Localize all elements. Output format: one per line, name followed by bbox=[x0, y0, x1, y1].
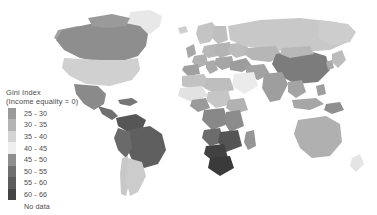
legend-item: 60 - 66 bbox=[6, 189, 118, 201]
legend-label: 45 - 50 bbox=[24, 155, 47, 164]
legend-label: 25 - 30 bbox=[24, 109, 47, 118]
map-legend: Gini Index (Income equality = 0) 25 - 30… bbox=[6, 88, 118, 212]
legend-subtitle: (Income equality = 0) bbox=[6, 97, 118, 106]
legend-swatch-no-data bbox=[8, 200, 16, 212]
legend-swatch bbox=[8, 154, 16, 166]
legend-swatch bbox=[8, 108, 16, 120]
legend-item-no-data: No data bbox=[6, 200, 118, 212]
legend-item: 40 - 45 bbox=[6, 142, 118, 154]
legend-label: 60 - 66 bbox=[24, 190, 47, 199]
legend-item: 25 - 30 bbox=[6, 108, 118, 120]
legend-label: 40 - 45 bbox=[24, 144, 47, 153]
legend-label: 50 - 55 bbox=[24, 167, 47, 176]
legend-swatch bbox=[8, 142, 16, 154]
legend-title: Gini Index bbox=[6, 88, 118, 97]
legend-item: 50 - 55 bbox=[6, 166, 118, 178]
legend-label: 55 - 60 bbox=[24, 178, 47, 187]
legend-label: 35 - 40 bbox=[24, 132, 47, 141]
legend-item: 55 - 60 bbox=[6, 177, 118, 189]
legend-item: 30 - 35 bbox=[6, 119, 118, 131]
legend-item: 45 - 50 bbox=[6, 154, 118, 166]
legend-items: 25 - 30 30 - 35 35 - 40 40 - 45 45 - 50 bbox=[6, 108, 118, 212]
legend-swatch bbox=[8, 131, 16, 143]
legend-label: No data bbox=[24, 202, 50, 211]
legend-swatch bbox=[8, 189, 16, 201]
legend-item: 35 - 40 bbox=[6, 131, 118, 143]
gini-index-world-map: Gini Index (Income equality = 0) 25 - 30… bbox=[0, 0, 377, 215]
legend-label: 30 - 35 bbox=[24, 120, 47, 129]
legend-swatch bbox=[8, 166, 16, 178]
legend-swatch bbox=[8, 119, 16, 131]
legend-swatch bbox=[8, 177, 16, 189]
